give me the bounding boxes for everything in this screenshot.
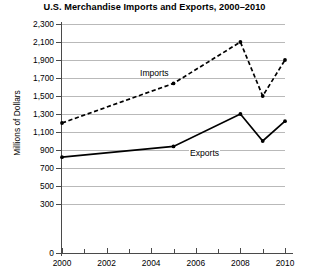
x-axis-tick-mark xyxy=(151,248,152,254)
data-point-marker xyxy=(60,121,64,125)
data-point-marker xyxy=(172,82,176,86)
x-axis-tick-label: 2008 xyxy=(220,258,260,268)
data-point-marker xyxy=(283,119,287,123)
x-axis-tick-mark xyxy=(240,248,241,254)
x-axis-minor-tick-mark xyxy=(218,249,219,254)
data-point-marker xyxy=(261,139,265,143)
y-axis-tick-mark xyxy=(56,204,62,205)
series-line-exports xyxy=(62,114,285,157)
data-point-marker xyxy=(60,155,64,159)
y-axis-tick-mark xyxy=(56,186,62,187)
y-axis-tick-mark xyxy=(56,168,62,169)
x-axis-minor-tick-mark xyxy=(84,249,85,254)
x-axis-tick-label: 2010 xyxy=(265,258,305,268)
x-axis-tick-label: 2006 xyxy=(176,258,216,268)
data-point-marker xyxy=(261,94,265,98)
x-axis-tick-mark xyxy=(62,248,63,254)
x-axis-tick-label: 2004 xyxy=(131,258,171,268)
x-axis-tick-mark xyxy=(196,248,197,254)
data-point-marker xyxy=(239,40,243,44)
y-axis-tick-mark xyxy=(56,114,62,115)
x-axis-minor-tick-mark xyxy=(174,249,175,254)
x-axis-minor-tick-mark xyxy=(263,249,264,254)
series-layer xyxy=(0,0,309,280)
x-axis-tick-label: 2000 xyxy=(42,258,82,268)
y-axis-tick-mark xyxy=(56,24,62,25)
x-axis-minor-tick-mark xyxy=(129,249,130,254)
series-label-exports: Exports xyxy=(189,148,220,158)
data-point-marker xyxy=(172,145,176,149)
y-axis-tick-mark xyxy=(56,96,62,97)
data-point-marker xyxy=(283,58,287,62)
x-axis-tick-mark xyxy=(107,248,108,254)
y-axis-tick-mark xyxy=(56,42,62,43)
y-axis-tick-mark xyxy=(56,60,62,61)
x-axis-tick-label: 2002 xyxy=(87,258,127,268)
data-point-marker xyxy=(239,112,243,116)
y-axis-tick-mark xyxy=(56,78,62,79)
x-axis-tick-mark xyxy=(285,248,286,254)
series-label-imports: Imports xyxy=(139,68,170,78)
y-axis-tick-mark xyxy=(56,150,62,151)
y-axis-tick-mark xyxy=(56,132,62,133)
chart-container: U.S. Merchandise Imports and Exports, 20… xyxy=(0,0,309,280)
